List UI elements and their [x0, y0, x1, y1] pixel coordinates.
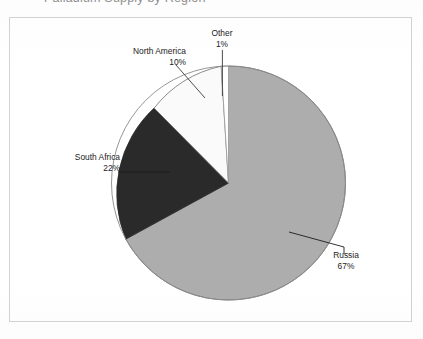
slice-label-russia-name: Russia [322, 250, 370, 261]
slice-label-south-africa-value: 22% [40, 163, 120, 174]
slice-label-north-america: North America 10% [108, 46, 186, 67]
slice-label-north-america-name: North America [108, 46, 186, 57]
slice-label-other-name: Other [200, 28, 244, 39]
chart-page: Palladium Supply by Region North America… [0, 0, 423, 339]
slice-label-south-africa: South Africa 22% [40, 152, 120, 173]
slice-label-russia-value: 67% [322, 261, 370, 272]
slice-label-russia: Russia 67% [322, 250, 370, 271]
slice-label-other: Other 1% [200, 28, 244, 49]
slice-label-north-america-value: 10% [108, 57, 186, 68]
slice-label-other-value: 1% [200, 39, 244, 50]
slice-label-south-africa-name: South Africa [40, 152, 120, 163]
